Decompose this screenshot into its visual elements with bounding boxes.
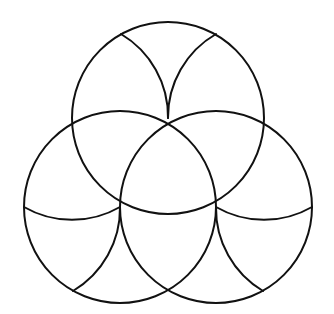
circles-group (24, 22, 312, 303)
three-circle-pattern (0, 0, 334, 314)
diagram-canvas (0, 0, 334, 314)
top-right-petal-arc (168, 34, 216, 118)
petal-arcs-group (24, 34, 312, 291)
top-left-petal-arc (121, 34, 168, 118)
left-upper-petal-arc (24, 207, 120, 220)
right-upper-petal-arc (216, 207, 312, 220)
